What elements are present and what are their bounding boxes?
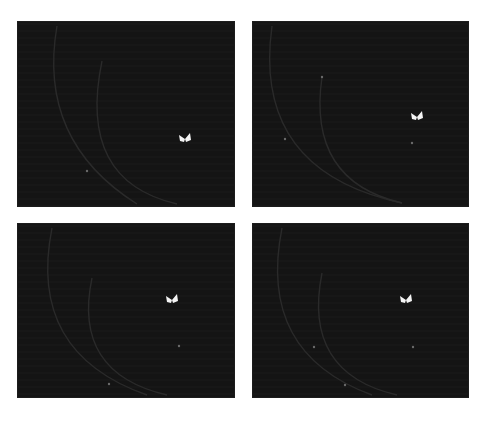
tracking-dot — [313, 346, 315, 348]
video-frame-bottom-left — [17, 223, 235, 398]
arena-arc — [319, 273, 397, 395]
butterfly-icon — [179, 133, 191, 142]
tracking-dot — [412, 346, 414, 348]
tracking-dot — [284, 138, 286, 140]
video-frame-top-right — [252, 21, 469, 207]
butterfly-icon — [400, 294, 412, 303]
tracking-dot — [344, 384, 346, 386]
tracking-dot — [86, 170, 88, 172]
video-frame-bottom-right — [252, 223, 469, 398]
tracking-dot — [321, 76, 323, 78]
arena-arc — [278, 228, 372, 395]
video-frame-top-left — [17, 21, 235, 207]
tracking-dot — [411, 142, 413, 144]
arena-arc — [320, 77, 402, 203]
butterfly-icon — [166, 294, 178, 303]
tracking-dot — [178, 345, 180, 347]
tracking-dot — [108, 383, 110, 385]
arena-arc — [48, 228, 147, 395]
